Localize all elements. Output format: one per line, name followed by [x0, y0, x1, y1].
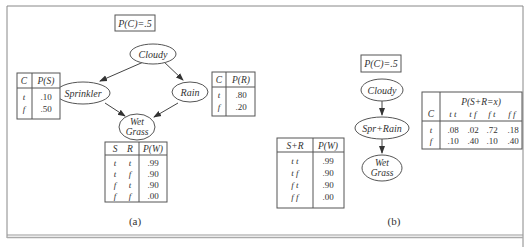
svg-text:.00: .00 [147, 191, 159, 201]
node-cloudy: Cloudy [130, 44, 176, 64]
node-wet-grass-b: Wet Grass [362, 155, 402, 181]
svg-text:.00: .00 [322, 192, 334, 202]
svg-text:t t: t t [291, 156, 299, 166]
svg-text:C: C [428, 109, 435, 119]
svg-text:.50: .50 [40, 104, 52, 114]
svg-text:.90: .90 [147, 169, 159, 179]
edge-sprinkler-wet [105, 103, 125, 116]
panel-a-label: (a) [129, 215, 142, 228]
edge-cloudy-sprinkler [100, 60, 148, 81]
cpt-rain: C P(R) t .80 f .20 [212, 72, 255, 116]
svg-text:f t: f t [291, 180, 299, 190]
prior-box-b: P(C)=.5 [361, 55, 401, 72]
svg-text:P(S+R=x): P(S+R=x) [460, 97, 501, 108]
svg-text:P(W): P(W) [142, 144, 163, 155]
svg-text:.10: .10 [447, 136, 459, 146]
svg-text:.90: .90 [147, 180, 159, 190]
svg-text:S+R: S+R [287, 141, 304, 151]
svg-text:.10: .10 [40, 92, 52, 102]
svg-text:P(W): P(W) [317, 141, 338, 152]
svg-text:.08: .08 [447, 125, 459, 135]
svg-text:.18: .18 [507, 125, 519, 135]
cpt-wet-grass: S R P(W) t t .99 t f .90 f t .90 f f .00 [105, 142, 167, 202]
svg-text:S: S [113, 144, 118, 154]
svg-text:Grass: Grass [126, 127, 149, 137]
svg-text:C: C [216, 75, 223, 85]
node-spr-rain: Spr+Rain [355, 117, 409, 139]
svg-text:Sprinkler: Sprinkler [64, 88, 101, 99]
svg-text:R: R [126, 144, 133, 154]
svg-text:P(R): P(R) [231, 75, 250, 86]
svg-text:Wet: Wet [130, 117, 144, 127]
cpt-spr-rain: P(S+R=x) C t t t f f t f f t .08 .02 .72… [422, 92, 522, 149]
node-sprinkler: Sprinkler [56, 82, 110, 104]
svg-text:.90: .90 [322, 168, 334, 178]
node-rain: Rain [172, 82, 208, 102]
svg-text:.90: .90 [322, 180, 334, 190]
svg-text:.40: .40 [507, 136, 519, 146]
svg-text:.02: .02 [467, 125, 478, 135]
svg-text:P(C)=.5: P(C)=.5 [363, 58, 398, 70]
svg-text:.40: .40 [467, 136, 479, 146]
svg-text:.10: .10 [486, 136, 498, 146]
panel-a: P(C)=.5 Cloudy Sprinkler Rain Wet Grass [17, 15, 255, 228]
bayes-net-figure: P(C)=.5 Cloudy Sprinkler Rain Wet Grass [0, 0, 530, 247]
prior-text: P(C)=.5 [117, 18, 152, 30]
svg-text:f t: f t [488, 109, 496, 119]
prior-box-a: P(C)=.5 [115, 15, 155, 31]
svg-text:t t: t t [449, 109, 457, 119]
svg-text:Cloudy: Cloudy [139, 49, 168, 60]
node-wet-grass: Wet Grass [119, 114, 155, 140]
svg-text:Grass: Grass [371, 168, 394, 178]
node-cloudy-b: Cloudy [361, 79, 403, 101]
panel-b-label: (b) [388, 215, 401, 228]
svg-text:P(S): P(S) [37, 76, 55, 87]
cpt-sprinkler: C P(S) t .10 f .50 [17, 73, 60, 119]
panel-b: P(C)=.5 Cloudy Spr+Rain Wet Grass S+R P(… [277, 55, 522, 228]
svg-text:.99: .99 [147, 158, 159, 168]
svg-text:.80: .80 [235, 90, 247, 100]
svg-text:Rain: Rain [180, 87, 200, 98]
svg-text:.20: .20 [235, 102, 247, 112]
svg-text:Wet: Wet [375, 158, 389, 168]
svg-text:.99: .99 [322, 156, 334, 166]
svg-text:Cloudy: Cloudy [368, 85, 397, 96]
svg-text:C: C [21, 76, 28, 86]
cpt-wet-grass-b: S+R P(W) t t .99 t f .90 f t .90 f f .00 [277, 138, 344, 208]
edge-rain-wet [154, 103, 178, 117]
svg-text:Spr+Rain: Spr+Rain [362, 123, 402, 134]
svg-text:.72: .72 [486, 125, 497, 135]
